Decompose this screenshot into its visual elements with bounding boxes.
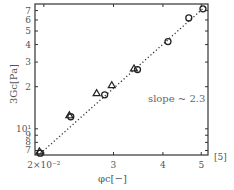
x-tick-label: 5: [198, 160, 204, 170]
plot-frame: [35, 4, 208, 155]
x-tick-label: 4: [160, 160, 166, 170]
x-tick-label: 3: [111, 160, 117, 170]
y-tick-label: 6: [25, 15, 31, 25]
slope-annotation: slope ~ 2.3: [148, 93, 205, 104]
y-tick-label: 5: [25, 26, 31, 36]
y-tick-label: 10¹: [16, 124, 31, 134]
corner-mark: [5]: [214, 152, 227, 162]
x-tick-label: 2×10⁻²: [27, 160, 60, 170]
circle-marker: [165, 39, 171, 45]
circle-marker: [102, 92, 108, 98]
circle-marker: [186, 15, 192, 21]
y-tick-label: 7: [25, 6, 31, 16]
scatter-chart: 2×10⁻²34578910¹234567 slope ~ 2.3 φc[−] …: [0, 0, 234, 190]
triangle-marker: [93, 90, 100, 96]
y-tick-label: 2: [25, 82, 31, 92]
axis-ticks: 2×10⁻²34578910¹234567: [16, 4, 208, 170]
triangle-marker: [108, 82, 115, 88]
y-axis-label: 3Gc[Pa]: [8, 64, 19, 104]
x-axis-label: φc[−]: [98, 173, 127, 184]
y-tick-label: 3: [25, 57, 31, 67]
circle-marker: [200, 6, 206, 12]
y-tick-label: 4: [25, 40, 31, 50]
fit-line: [38, 6, 206, 156]
